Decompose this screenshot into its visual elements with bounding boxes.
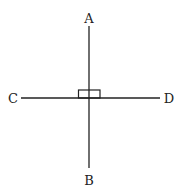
label-a: A <box>83 11 94 26</box>
perpendicular-lines-diagram: A B C D <box>0 0 186 194</box>
label-c: C <box>8 91 18 106</box>
label-d: D <box>164 91 174 106</box>
label-b: B <box>84 173 94 188</box>
